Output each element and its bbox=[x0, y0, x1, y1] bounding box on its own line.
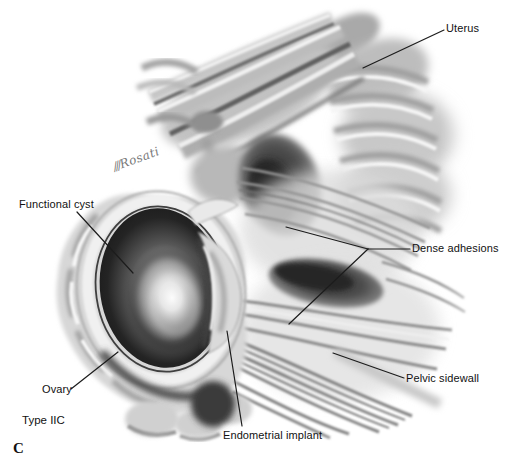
functional-cyst-label: Functional cyst bbox=[19, 198, 94, 210]
panel-letter: C bbox=[13, 440, 24, 457]
ovary-label: Ovary bbox=[42, 383, 72, 395]
type-iic-label: Type IIC bbox=[22, 414, 65, 426]
figure-panel: ///Rosati Uterus Functional cyst Dense a… bbox=[0, 0, 508, 468]
medical-illustration bbox=[0, 0, 508, 468]
edge-fade-right bbox=[440, 0, 508, 468]
uterus-label: Uterus bbox=[446, 22, 479, 34]
pelvic-sidewall-label: Pelvic sidewall bbox=[406, 372, 479, 384]
endometrial-implant-label: Endometrial implant bbox=[223, 429, 322, 441]
dense-adhesions-label: Dense adhesions bbox=[412, 242, 499, 254]
